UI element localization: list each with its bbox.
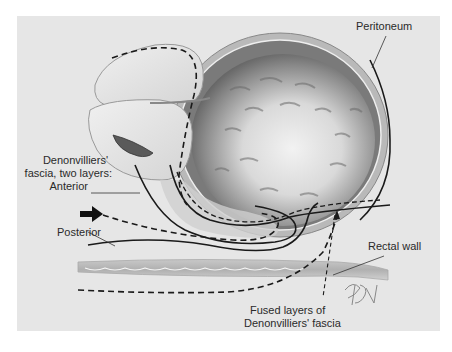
artist-signature [345,284,377,305]
label-denonvilliers-line2: fascia, two layers: [12,167,112,180]
arrow-icon [80,206,103,222]
label-anterior: Anterior [12,180,88,193]
seminal-vesicle [95,44,204,105]
label-rectal-wall: Rectal wall [368,240,421,253]
label-fused-layers-line2: Denonvilliers' fascia [244,317,341,330]
label-fused-layers-line1: Fused layers of [250,304,325,317]
label-denonvilliers-line1: Denonvilliers' [12,154,108,167]
label-posterior: Posterior [57,226,101,239]
label-peritoneum: Peritoneum [356,20,412,33]
rectum [78,260,388,281]
